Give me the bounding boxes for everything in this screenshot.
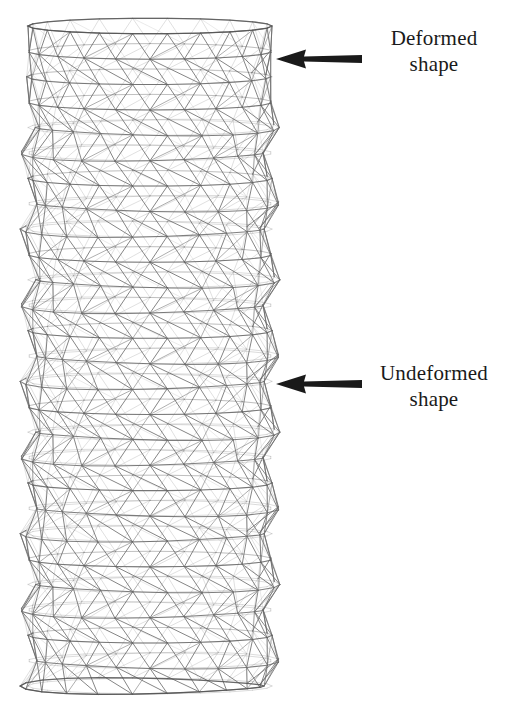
lattice-deformation-figure: Deformed shape Undeformed shape — [0, 0, 516, 704]
deformed-label-line-1: Deformed — [364, 26, 504, 52]
deformed-label-line-2: shape — [364, 52, 504, 78]
undeformed-label-line-1: Undeformed — [356, 361, 512, 387]
lattice-structure-graphic — [0, 0, 516, 704]
lattice-wireframe — [20, 18, 280, 694]
left-arrow-icon-undeformed — [276, 371, 362, 397]
left-arrow-icon-deformed — [276, 46, 362, 72]
undeformed-shape-label: Undeformed shape — [356, 361, 512, 412]
undeformed-label-line-2: shape — [356, 387, 512, 413]
deformed-shape-label: Deformed shape — [364, 26, 504, 77]
